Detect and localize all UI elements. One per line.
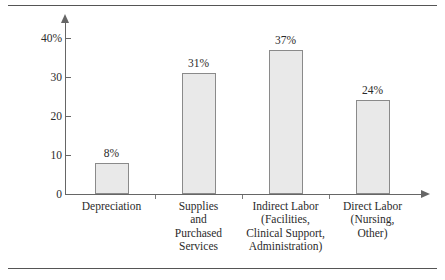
- y-axis-arrow-icon: [61, 14, 69, 23]
- y-axis-tick-label: 0: [56, 189, 62, 201]
- category-label-line: (Nursing,: [325, 213, 421, 226]
- x-axis-arrow-icon: [421, 190, 430, 198]
- category-label-line: Other): [325, 227, 421, 240]
- bar: [356, 100, 390, 194]
- y-axis-tick-label: 20: [51, 111, 63, 123]
- bar-value-label: 24%: [348, 85, 398, 97]
- y-axis-tick: [66, 77, 71, 78]
- bar: [95, 163, 129, 194]
- category-label-line: Direct Labor: [325, 200, 421, 213]
- x-axis-tick: [155, 195, 156, 199]
- bar-value-label: 37%: [261, 35, 311, 47]
- y-axis-tick-label: 40%: [41, 33, 62, 45]
- y-axis-tick: [66, 38, 71, 39]
- y-axis-tick: [66, 194, 71, 195]
- bar: [269, 50, 303, 194]
- category-label-line: Depreciation: [62, 200, 162, 213]
- bar-value-label: 31%: [174, 58, 224, 70]
- category-label-line: Administration): [226, 240, 346, 253]
- bar-value-label: 8%: [87, 148, 137, 160]
- x-axis-category-label: Direct Labor(Nursing,Other): [325, 200, 421, 240]
- x-axis-line: [65, 194, 422, 195]
- y-axis-tick-label: 30: [51, 72, 63, 84]
- y-axis-tick: [66, 155, 71, 156]
- y-axis-line: [65, 22, 66, 195]
- x-axis-category-label: Depreciation: [62, 200, 162, 213]
- x-axis-tick: [329, 195, 330, 199]
- y-axis-tick: [66, 116, 71, 117]
- y-axis-tick-label: 10: [51, 150, 63, 162]
- bar-chart-plot: 010203040% 8%31%37%24% DepreciationSuppl…: [0, 0, 445, 280]
- x-axis-tick: [242, 195, 243, 199]
- figure-container: 010203040% 8%31%37%24% DepreciationSuppl…: [0, 0, 445, 280]
- bar: [182, 73, 216, 194]
